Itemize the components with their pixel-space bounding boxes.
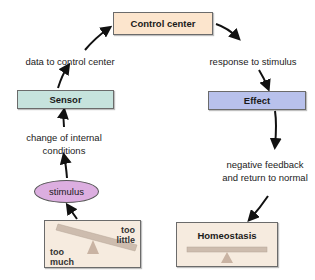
edge-label-response: response to stimulus [198,56,308,68]
edge-label-feedback-line1: negative feedback [215,159,315,171]
sensor-box: Sensor [17,90,114,109]
sensor-label: Sensor [49,94,81,105]
arrow-feedback-homeostasis [250,196,268,219]
control-center-box: Control center [113,12,213,35]
arrow-sensor-control-upper [85,28,109,50]
arrow-stimulus-change [64,156,67,178]
arrow-change-sensor [64,111,65,127]
stimulus-ellipse: stimulus [34,180,99,203]
arrow-effect-feedback [275,111,276,146]
edge-label-data-to-control: data to control center [14,56,126,68]
edge-label-change-line2: conditions [8,145,120,157]
balanced-seesaw [177,223,279,268]
arrow-control-response [216,24,238,38]
too-much-label-1: too [50,247,64,257]
stimulus-label: stimulus [49,186,84,197]
arrow-response-effect [259,70,268,88]
arrow-sensor-control-lower [58,66,68,88]
too-little-label-1: too [121,225,135,235]
edge-label-change-line1: change of internal [8,132,120,144]
arrow-imbalance-stimulus [68,206,77,219]
too-much-label-2: much [50,257,74,267]
homeostasis-box: Homeostasis [176,222,278,267]
effect-label: Effect [244,95,270,106]
edge-label-feedback-line2: and return to normal [212,172,315,184]
control-center-label: Control center [131,18,196,29]
too-little-label-2: little [116,235,135,245]
imbalance-box: too much too little [44,220,141,268]
effect-box: Effect [208,91,306,110]
